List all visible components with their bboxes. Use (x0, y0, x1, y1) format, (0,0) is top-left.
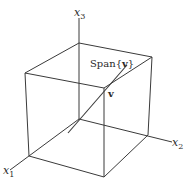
box-edge-vertical-right (148, 57, 152, 135)
x2-label: x2 (172, 136, 183, 151)
span-label: Span{v} (90, 58, 134, 69)
box-edge-top-front-left (25, 73, 104, 88)
x1-axis (10, 119, 79, 170)
x2-axis (79, 119, 172, 142)
box-edge-bottom-front-right (104, 135, 148, 177)
vector-v-label: v (107, 88, 115, 99)
x1-label: x1 (3, 164, 14, 179)
x3-label: x3 (74, 6, 85, 21)
span-diagram: x3 x1 x2 Span{v} v (0, 0, 188, 183)
box-edge-bottom-front-left (29, 156, 104, 177)
box-edge-top-back-right (79, 43, 152, 57)
box-edge-vertical-left (25, 73, 29, 156)
span-line (68, 65, 127, 133)
box-edge-top-back-left (25, 43, 79, 73)
